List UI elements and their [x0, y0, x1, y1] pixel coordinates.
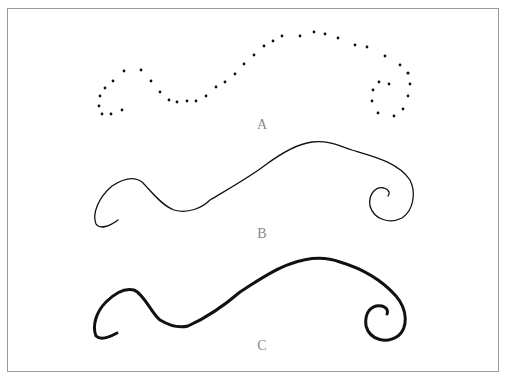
curve-c-thick	[94, 258, 405, 340]
curve-a-dotted	[98, 31, 412, 118]
figure-canvas	[0, 0, 508, 380]
panel-label-a: A	[257, 117, 267, 133]
panel-label-c: C	[257, 338, 266, 354]
curve-b-thin	[95, 142, 413, 227]
panel-label-b: B	[257, 226, 266, 242]
